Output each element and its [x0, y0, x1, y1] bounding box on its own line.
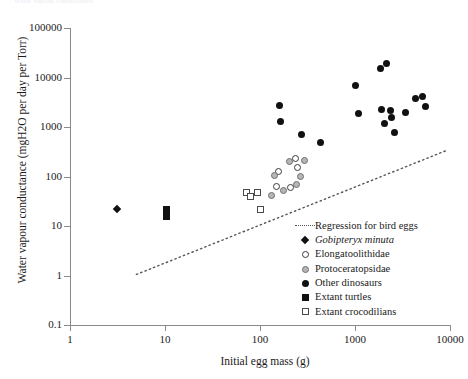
open-circle-icon	[302, 251, 309, 258]
data-point	[301, 157, 308, 164]
legend-swatch-dotted-line-icon	[295, 219, 315, 233]
data-point	[294, 164, 301, 171]
data-point	[297, 173, 304, 180]
data-point	[112, 205, 120, 213]
legend-swatch-gray-circle-icon	[295, 262, 315, 276]
data-point	[268, 192, 275, 199]
legend-label: Protoceratopsidae	[315, 264, 390, 275]
filled-square-icon	[302, 294, 309, 301]
legend-label: Regression for bird eggs	[315, 221, 418, 232]
data-point	[286, 158, 293, 165]
legend-label: Extant turtles	[315, 292, 371, 303]
legend-item[interactable]: Protoceratopsidae	[295, 262, 418, 276]
data-point	[422, 103, 429, 110]
legend-item[interactable]: Extant crocodilians	[295, 305, 418, 319]
data-point	[387, 107, 394, 114]
data-point	[419, 93, 426, 100]
data-point	[383, 60, 390, 67]
data-point	[388, 114, 395, 121]
legend-item[interactable]: Gobipteryx minuta	[295, 233, 418, 247]
data-point	[317, 139, 324, 146]
legend-swatch-filled-diamond-icon	[295, 233, 315, 247]
data-point	[163, 213, 170, 220]
data-point	[298, 131, 305, 138]
legend-label: Other dinosaurs	[315, 278, 382, 289]
data-point	[381, 120, 388, 127]
dotted-line-icon	[295, 225, 315, 228]
legend: Regression for bird eggsGobipteryx minut…	[295, 219, 418, 319]
data-point	[257, 206, 264, 213]
data-point	[271, 172, 278, 179]
data-point	[163, 206, 170, 213]
data-point	[378, 106, 385, 113]
legend-item[interactable]: Extant turtles	[295, 290, 418, 304]
filled-circle-icon	[302, 280, 309, 287]
gray-circle-icon	[302, 266, 309, 273]
data-point	[273, 183, 280, 190]
data-point	[247, 193, 254, 200]
data-point	[402, 109, 409, 116]
data-point	[276, 102, 283, 109]
data-point	[377, 65, 384, 72]
data-point	[254, 189, 261, 196]
data-point	[412, 95, 419, 102]
legend-label: Extant crocodilians	[315, 307, 396, 318]
legend-label: Elongatoolithidae	[315, 249, 390, 260]
legend-item[interactable]: Regression for bird eggs	[295, 219, 418, 233]
data-point	[293, 181, 300, 188]
filled-diamond-icon	[301, 236, 309, 244]
data-point	[391, 129, 398, 136]
data-point	[352, 82, 359, 89]
data-point	[280, 187, 287, 194]
open-square-icon	[302, 308, 309, 315]
legend-item[interactable]: Other dinosaurs	[295, 276, 418, 290]
legend-swatch-open-square-icon	[295, 305, 315, 319]
legend-item[interactable]: Elongatoolithidae	[295, 248, 418, 262]
data-point	[277, 118, 284, 125]
legend-swatch-filled-circle-icon	[295, 276, 315, 290]
legend-swatch-open-circle-icon	[295, 248, 315, 262]
legend-label: Gobipteryx minuta	[315, 235, 394, 246]
data-point	[355, 110, 362, 117]
legend-swatch-filled-square-icon	[295, 291, 315, 305]
